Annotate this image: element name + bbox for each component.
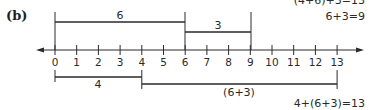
tick-label: 11 <box>287 56 300 68</box>
top-segment-3: 3 <box>185 12 251 50</box>
segment-label-6: 6 <box>117 9 124 22</box>
tick-label: 13 <box>330 56 343 68</box>
tick-label: 10 <box>265 56 278 68</box>
tick-label: 9 <box>247 56 254 68</box>
segment-label-6-plus-3: (6+3) <box>223 86 255 99</box>
tick-label: 5 <box>160 56 167 68</box>
equation-top-cut: (4+6)+3=13 <box>294 0 365 7</box>
left-arrow-icon <box>36 48 44 53</box>
tick-label: 6 <box>182 56 189 68</box>
number-line-axis <box>36 48 364 53</box>
bottom-segment-6-plus-3: (6+3) <box>142 70 337 99</box>
number-line-diagram: (b) (4+6)+3=13 6+3=9 6 3 <box>0 0 369 110</box>
tick-label: 0 <box>52 56 59 68</box>
tick-label: 2 <box>95 56 102 68</box>
right-arrow-icon <box>356 48 364 53</box>
part-label: (b) <box>6 8 27 23</box>
bottom-segment-4: 4 <box>55 70 142 91</box>
equation-top: 6+3=9 <box>326 10 365 23</box>
tick-label: 1 <box>73 56 80 68</box>
tick-labels: 0 1 2 3 4 5 6 7 8 9 10 11 12 13 <box>52 56 344 68</box>
segment-label-3: 3 <box>215 19 222 32</box>
equation-bottom: 4+(6+3)=13 <box>294 97 365 110</box>
tick-label: 3 <box>117 56 124 68</box>
top-segment-6: 6 <box>55 9 185 50</box>
tick-label: 7 <box>204 56 211 68</box>
tick-label: 12 <box>309 56 322 68</box>
segment-label-4: 4 <box>95 78 102 91</box>
tick-label: 8 <box>225 56 232 68</box>
tick-label: 4 <box>138 56 145 68</box>
